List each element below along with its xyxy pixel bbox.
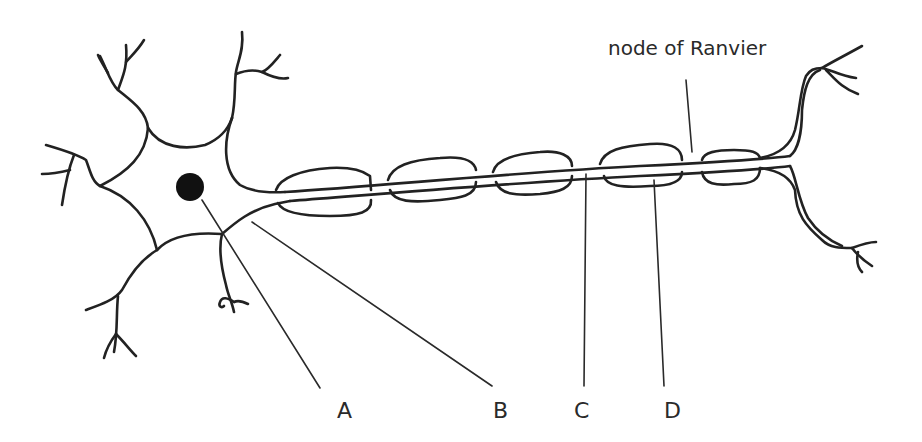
label-b: B: [493, 400, 508, 422]
leader-c: [584, 174, 586, 386]
leader-d: [654, 180, 664, 386]
leader-lines: [202, 80, 692, 388]
label-c: C: [574, 400, 589, 422]
axon-terminal: [760, 46, 876, 272]
label-d: D: [664, 400, 681, 422]
leader-b: [252, 222, 492, 386]
dendrites: [42, 32, 288, 358]
myelin-sheath: [276, 144, 760, 216]
label-node-of-ranvier: node of Ranvier: [608, 38, 766, 58]
label-a: A: [337, 400, 352, 422]
nucleus: [176, 173, 204, 201]
leader-node-of-ranvier: [686, 80, 692, 152]
neuron-diagram: [0, 0, 922, 442]
